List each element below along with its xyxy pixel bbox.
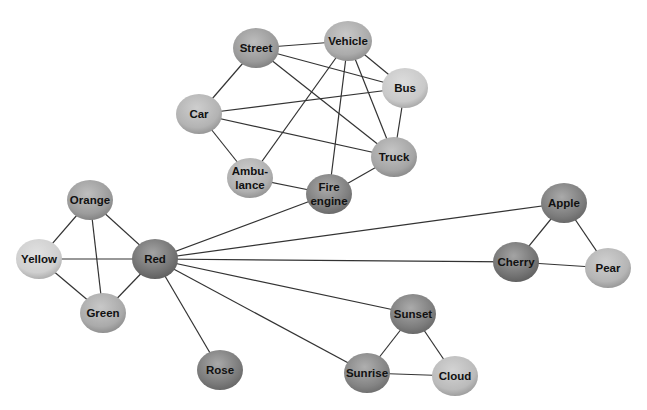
node-sunrise: Sunrise bbox=[344, 353, 390, 393]
node-label: Yellow bbox=[21, 253, 57, 265]
node-circle bbox=[306, 174, 352, 214]
edge-fire-red bbox=[155, 194, 329, 259]
node-label: engine bbox=[310, 195, 347, 207]
node-label: Truck bbox=[379, 151, 410, 163]
node-label: Green bbox=[86, 307, 119, 319]
node-label: Sunrise bbox=[346, 367, 388, 379]
node-label: Bus bbox=[394, 82, 416, 94]
node-street: Street bbox=[233, 28, 279, 68]
node-bus: Bus bbox=[382, 68, 428, 108]
node-vehicle: Vehicle bbox=[324, 21, 372, 61]
node-label: Pear bbox=[596, 262, 621, 274]
edge-red-cherry bbox=[155, 259, 516, 262]
node-yellow: Yellow bbox=[16, 239, 62, 279]
node-label: Street bbox=[240, 42, 273, 54]
node-cherry: Cherry bbox=[493, 242, 539, 282]
node-label: Fire bbox=[318, 181, 339, 193]
node-label: Rose bbox=[206, 364, 234, 376]
node-label: Cherry bbox=[497, 256, 535, 268]
node-label: Cloud bbox=[439, 370, 472, 382]
node-rose: Rose bbox=[197, 350, 243, 390]
node-label: Ambu- bbox=[232, 165, 269, 177]
node-orange: Orange bbox=[67, 180, 113, 220]
nodes-layer: StreetVehicleBusCarTruckAmbu-lanceFireen… bbox=[16, 21, 631, 396]
node-car: Car bbox=[176, 94, 222, 134]
node-fire: Fireengine bbox=[306, 174, 352, 214]
node-truck: Truck bbox=[371, 137, 417, 177]
node-label: Vehicle bbox=[328, 35, 368, 47]
node-label: Sunset bbox=[394, 308, 433, 320]
node-ambulance: Ambu-lance bbox=[227, 158, 273, 198]
edge-red-sunset bbox=[155, 259, 413, 314]
node-label: Red bbox=[144, 253, 166, 265]
edge-car-bus bbox=[199, 88, 405, 114]
edge-red-sunrise bbox=[155, 259, 367, 373]
node-circle bbox=[227, 158, 273, 198]
node-green: Green bbox=[80, 293, 126, 333]
node-label: Apple bbox=[548, 197, 580, 209]
node-apple: Apple bbox=[541, 183, 587, 223]
node-sunset: Sunset bbox=[390, 294, 436, 334]
node-pear: Pear bbox=[585, 248, 631, 288]
node-label: lance bbox=[235, 179, 264, 191]
node-label: Orange bbox=[70, 194, 110, 206]
semantic-network-diagram: StreetVehicleBusCarTruckAmbu-lanceFireen… bbox=[0, 0, 647, 410]
node-cloud: Cloud bbox=[432, 356, 478, 396]
node-label: Car bbox=[189, 108, 209, 120]
node-red: Red bbox=[132, 239, 178, 279]
